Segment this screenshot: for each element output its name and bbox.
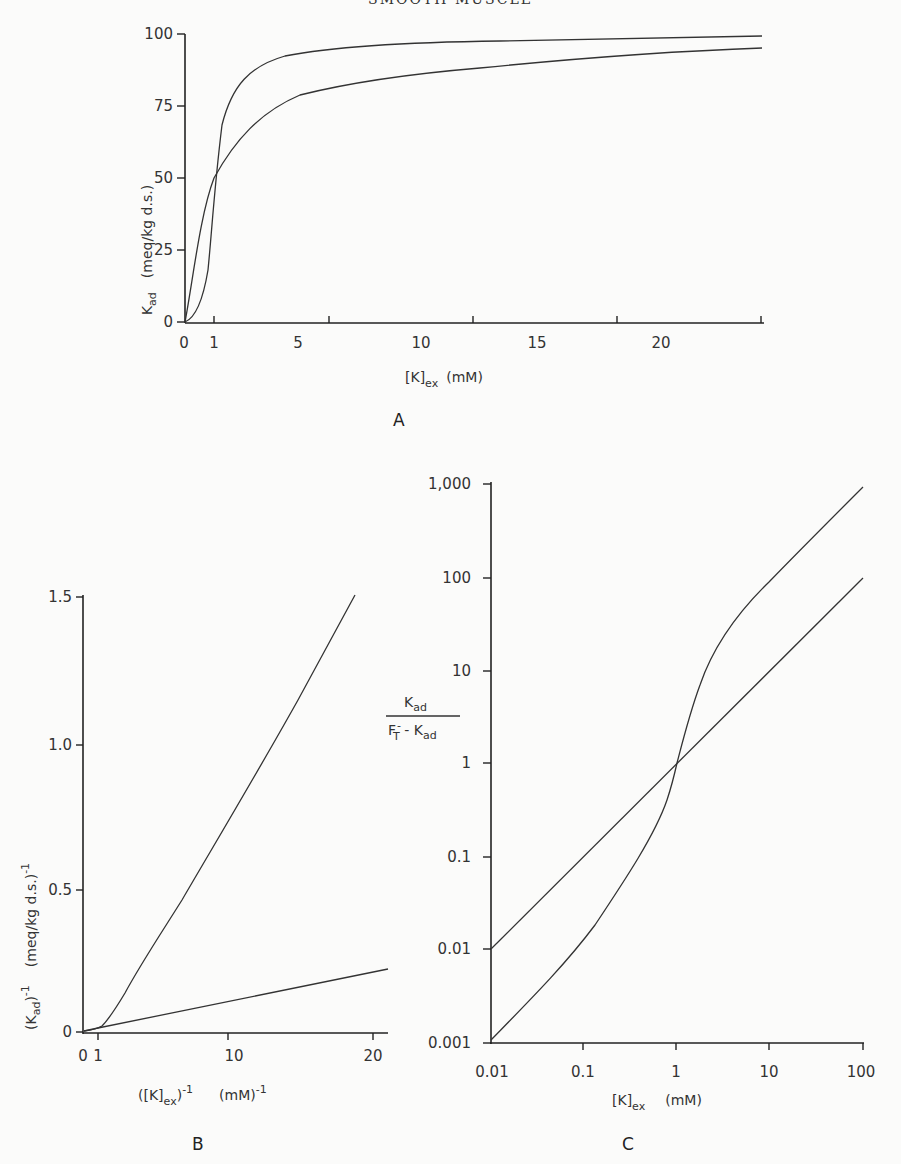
chart-b-ytick: 0 <box>62 1023 72 1041</box>
chart-a-ytick: 100 <box>144 25 173 43</box>
chart-c-ytick: 10 <box>452 662 471 680</box>
chart-b-xtick: 1 <box>93 1047 103 1065</box>
chart-c-ytick: 0.01 <box>438 940 471 958</box>
chart-c-ytick: 100 <box>442 569 471 587</box>
chart-a-curve-sigmoid <box>185 36 762 322</box>
chart-b: 1.5 1.0 0.5 0 0 1 10 20 (Kad)-1(meq/kg d… <box>19 588 388 1154</box>
chart-a-ylabel-units: (meq/kg d.s.) <box>139 185 155 278</box>
chart-a-ytick: 25 <box>154 241 173 259</box>
chart-c: 1,000 100 10 1 0.1 0.01 0.001 0.01 0.1 1… <box>386 475 875 1154</box>
chart-c-ylabel-numerator: Kad <box>404 694 427 714</box>
chart-c-x-label: [K]ex(mM) <box>612 1092 702 1113</box>
chart-c-curve-cooperative <box>491 487 863 1040</box>
chart-c-ytick: 0.001 <box>428 1034 471 1052</box>
chart-c-xtick: 1 <box>671 1063 681 1081</box>
chart-a-panel-label: A <box>393 410 405 430</box>
chart-c-xtick: 0.1 <box>571 1063 595 1081</box>
chart-b-xtick: 0 <box>78 1047 88 1065</box>
chart-c-ytick: 0.1 <box>447 848 471 866</box>
chart-a-xtick: 5 <box>293 334 303 352</box>
chart-b-curve-noncooperative <box>84 969 388 1031</box>
chart-c-ylabel-denominator: F-T - Kad <box>388 719 437 743</box>
chart-b-ytick: 0.5 <box>48 881 72 899</box>
chart-a-ylabel-sub: ad <box>146 292 159 306</box>
chart-a-ytick: 50 <box>154 169 173 187</box>
chart-b-x-ticks: 0 1 10 20 <box>78 1033 382 1065</box>
chart-a-x-ticks: 0 1 5 10 15 20 <box>179 316 761 352</box>
chart-b-ytick: 1.5 <box>48 588 72 606</box>
chart-b-x-label: ([K]ex)-1(mM)-1 <box>138 1083 267 1108</box>
chart-b-ytick: 1.0 <box>48 736 72 754</box>
chart-c-x-ticks: 0.01 0.1 1 10 100 <box>475 1043 875 1081</box>
chart-a-xtick: 20 <box>651 334 670 352</box>
chart-a-xtick: 1 <box>209 334 219 352</box>
chart-a-xtick: 0 <box>179 334 189 352</box>
chart-c-ytick: 1,000 <box>428 475 471 493</box>
chart-b-xtick: 20 <box>363 1047 382 1065</box>
chart-b-xtick: 10 <box>224 1047 243 1065</box>
chart-a-ytick: 75 <box>154 97 173 115</box>
chart-a-xtick: 15 <box>527 334 546 352</box>
chart-c-xtick: 0.01 <box>475 1063 508 1081</box>
chart-a-xtick: 10 <box>411 334 430 352</box>
chart-b-panel-label: B <box>192 1134 204 1154</box>
chart-b-curve-cooperative <box>84 595 355 1031</box>
chart-a: 100 75 50 25 0 0 1 5 10 15 20 Kad(meq/kg… <box>139 25 764 430</box>
chart-b-y-ticks: 1.5 1.0 0.5 0 <box>48 588 83 1041</box>
chart-c-y-label: Kad F-T - Kad <box>386 694 460 743</box>
chart-a-ytick: 0 <box>163 313 173 331</box>
chart-a-curve-hyperbolic <box>185 48 762 322</box>
figure: 100 75 50 25 0 0 1 5 10 15 20 Kad(meq/kg… <box>0 0 901 1164</box>
chart-a-x-label: [K]ex(mM) <box>405 369 483 390</box>
chart-c-xtick: 10 <box>759 1063 778 1081</box>
chart-c-panel-label: C <box>622 1134 634 1154</box>
chart-b-y-label: (Kad)-1(meq/kg d.s.)-1 <box>19 863 43 1030</box>
chart-c-ytick: 1 <box>461 754 471 772</box>
chart-a-y-ticks: 100 75 50 25 0 <box>144 25 185 331</box>
chart-c-xtick: 100 <box>847 1063 876 1081</box>
chart-c-y-ticks: 1,000 100 10 1 0.1 0.01 0.001 <box>428 475 491 1052</box>
svg-text:(Kad)-1(meq/kg d.s.)-1: (Kad)-1(meq/kg d.s.)-1 <box>19 863 43 1030</box>
